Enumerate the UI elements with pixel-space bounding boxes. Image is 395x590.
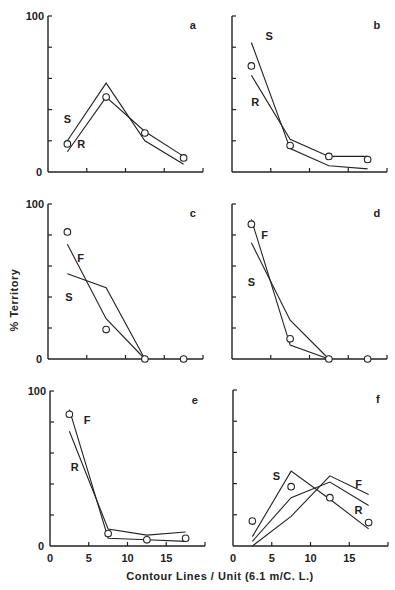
panel-letter: d [374, 207, 381, 219]
panel-c: 1000cFS [26, 198, 203, 365]
observed-point [144, 537, 151, 544]
x-tick-label: 10 [304, 552, 316, 564]
y-tick-100: 100 [26, 198, 44, 210]
series-label: F [84, 414, 91, 426]
panel-d: dFS [232, 204, 387, 362]
observed-point [326, 356, 333, 363]
observed-point [103, 94, 110, 101]
observed-point [64, 141, 71, 148]
series-line-R [251, 75, 367, 156]
panel-letter: a [190, 19, 197, 31]
series-label: S [273, 470, 280, 482]
x-axis-label: Contour Lines / Unit (6.1 m/C. L.) [126, 570, 314, 582]
observed-point [64, 229, 71, 236]
observed-point [326, 153, 333, 160]
x-tick-label: 0 [47, 552, 53, 564]
observed-point [249, 518, 256, 525]
observed-point [327, 494, 334, 501]
series-line-S [251, 43, 367, 169]
observed-point [287, 336, 294, 343]
observed-point [288, 483, 295, 490]
observed-point [180, 356, 187, 363]
y-tick-0: 0 [38, 540, 44, 552]
y-tick-100: 100 [28, 385, 46, 397]
panel-letter: b [374, 19, 381, 31]
x-tick-label: 15 [343, 552, 355, 564]
series-label: F [261, 229, 268, 241]
panel-f: 051015fSFR [230, 390, 388, 564]
y-tick-100: 100 [26, 10, 44, 22]
panel-letter: e [192, 394, 198, 406]
x-tick-label: 10 [121, 552, 133, 564]
observed-point [182, 535, 189, 542]
series-line-R [69, 431, 185, 535]
panel-e: 1000051015eFR [28, 385, 205, 564]
series-label: R [71, 461, 79, 473]
observed-point [364, 156, 371, 163]
observed-point [66, 411, 73, 418]
y-tick-0: 0 [36, 353, 42, 365]
observed-point [105, 530, 112, 537]
panel-a: 1000aSR [26, 10, 203, 178]
panel-letter: f [376, 393, 380, 405]
observed-point [142, 356, 149, 363]
y-axis-label: % Territory [8, 268, 20, 331]
series-label: R [251, 96, 259, 108]
series-label: R [355, 504, 363, 516]
series-line-S [252, 471, 368, 537]
observed-point [287, 142, 294, 149]
series-line-S [67, 83, 183, 164]
observed-point [103, 326, 110, 333]
panel-letter: c [190, 207, 196, 219]
x-tick-label: 5 [86, 552, 92, 564]
observed-point [180, 155, 187, 162]
series-label: S [64, 113, 71, 125]
observed-point [248, 221, 255, 228]
series-label: F [355, 478, 362, 490]
series-label: S [266, 30, 273, 42]
series-line-F [252, 476, 368, 546]
y-tick-0: 0 [36, 166, 42, 178]
observed-point [364, 356, 371, 363]
figure-canvas: 1000aSRbSR1000cFSdFS1000051015eFR051015f… [0, 0, 395, 590]
observed-point [142, 130, 149, 137]
series-label: F [77, 252, 84, 264]
x-tick-label: 0 [230, 552, 236, 564]
panel-b: bSR [232, 16, 387, 172]
x-tick-label: 15 [160, 552, 172, 564]
series-label: S [248, 276, 255, 288]
series-label: R [77, 138, 85, 150]
observed-point [365, 519, 372, 526]
series-label: S [65, 291, 72, 303]
x-tick-label: 5 [269, 552, 275, 564]
observed-point [248, 63, 255, 70]
